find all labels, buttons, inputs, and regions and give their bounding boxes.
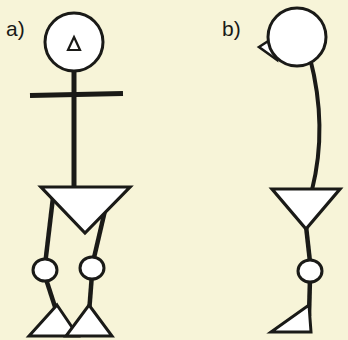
panel-a-arms-bar <box>30 94 123 96</box>
panel-a-label: a) <box>6 17 25 40</box>
panel-b-knee <box>298 260 322 282</box>
stick-figure-diagram: a) <box>0 0 348 340</box>
panel-b-label: b) <box>222 17 241 40</box>
panel-a-right-knee <box>80 257 104 279</box>
panel-b-head <box>268 8 326 66</box>
figure-container: a) <box>0 0 348 340</box>
panel-a-left-knee <box>33 259 57 281</box>
